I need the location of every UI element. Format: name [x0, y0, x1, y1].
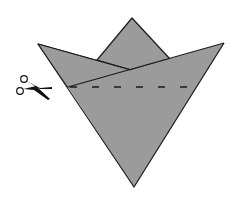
- folded-paper-diagram: [0, 0, 238, 208]
- scissors-icon: [17, 76, 52, 100]
